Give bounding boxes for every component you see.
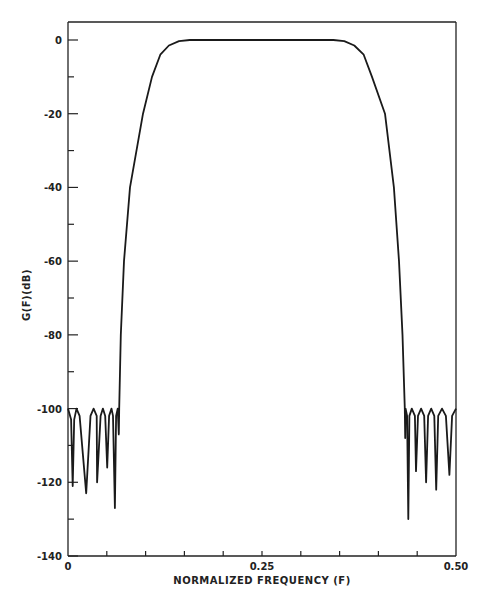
plot-frame bbox=[68, 22, 456, 556]
y-tick-label: 0 bbox=[55, 35, 62, 46]
gain-curve bbox=[68, 40, 456, 519]
x-tick-label: 0.50 bbox=[444, 561, 469, 572]
y-tick-label: -20 bbox=[44, 109, 62, 120]
y-tick-label: -60 bbox=[44, 256, 62, 267]
y-tick-label: -80 bbox=[44, 330, 62, 341]
x-tick-label: 0 bbox=[65, 561, 72, 572]
x-tick-label: 0.25 bbox=[250, 561, 275, 572]
y-tick-label: -40 bbox=[44, 182, 62, 193]
y-tick-label: -140 bbox=[37, 551, 62, 562]
y-tick-label: -120 bbox=[37, 477, 62, 488]
x-axis-label: NORMALIZED FREQUENCY (F) bbox=[173, 575, 350, 586]
y-tick-label: -100 bbox=[37, 404, 62, 415]
y-axis-label: G(F)(dB) bbox=[21, 269, 32, 321]
x-axis-ticks: 00.250.50 bbox=[65, 551, 469, 572]
chart: 0-20-40-60-80-100-120-140 00.250.50 NORM… bbox=[0, 0, 477, 605]
